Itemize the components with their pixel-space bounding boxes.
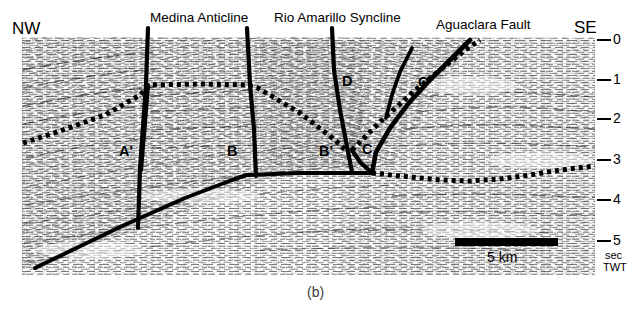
block-label-c: C [362,142,372,157]
annotation-medina-anticline: Medina Anticline [150,11,248,25]
block-label-b-prime: B' [319,144,333,159]
block-label-d: D [342,74,352,89]
depth-axis-unit-twt: TWT [603,262,627,273]
depth-axis-ticks [597,40,611,241]
depth-tick-label-2: 2 [613,111,621,125]
depth-tick-label-5: 5 [613,233,621,247]
depth-axis-unit-sec: sec [605,250,622,261]
block-label-b: B [227,144,237,159]
scale-bar-label: 5 km [487,250,517,264]
orientation-label-nw: NW [12,20,40,37]
orientation-label-se: SE [574,19,597,36]
figure-caption: (b) [307,285,324,299]
block-label-c-prime: C' [418,75,432,90]
annotation-aguaclara-fault: Aguaclara Fault [436,18,531,32]
depth-tick-label-0: 0 [613,32,621,46]
scale-bar [455,238,558,246]
annotation-rio-amarillo-syncline: Rio Amarillo Syncline [274,11,401,25]
block-label-a-prime: A' [119,144,133,159]
depth-tick-label-3: 3 [613,152,621,166]
depth-tick-label-4: 4 [613,192,621,206]
depth-tick-label-1: 1 [613,72,621,86]
seismic-section-figure: NW SE Medina Anticline Rio Amarillo Sync… [0,0,639,309]
